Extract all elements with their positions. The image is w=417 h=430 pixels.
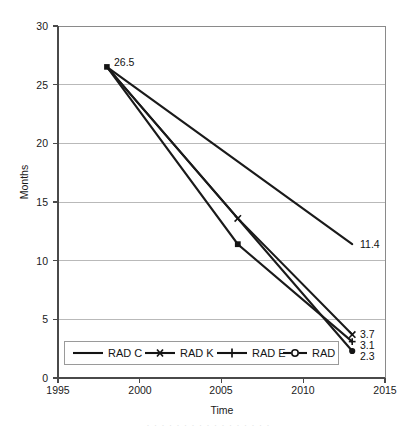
x-tick-label-2000: 2000 xyxy=(120,385,160,395)
y-axis-title: Months xyxy=(18,152,30,212)
x-axis-title: Time xyxy=(58,404,386,416)
marker-start-26-5 xyxy=(104,64,110,70)
y-tick-label-25: 25 xyxy=(22,80,48,90)
data-label-start: 26.5 xyxy=(114,57,134,67)
chart-figure: 30 25 20 15 10 5 0 1995 2000 2005 2010 2… xyxy=(0,0,417,430)
legend-content: RAD C RAD K RAD E RAD EK xyxy=(65,342,338,364)
marker-rad-k-end xyxy=(349,331,355,337)
legend-swatch-rad-e xyxy=(217,349,247,358)
gridlines xyxy=(58,85,385,320)
series-line-rad-k xyxy=(107,67,352,335)
series-line-rad-c xyxy=(107,67,352,244)
marker-rad-ek-end xyxy=(349,348,355,354)
x-tick-label-2015: 2015 xyxy=(365,385,405,395)
y-tick-label-10: 10 xyxy=(22,256,48,266)
data-label-rad-k: 3.7 xyxy=(360,329,375,339)
x-axis xyxy=(58,378,385,383)
x-tick-label-1995: 1995 xyxy=(38,385,78,395)
data-label-rad-c: 11.4 xyxy=(360,239,380,249)
legend-swatch-rad-k xyxy=(145,350,175,357)
data-label-rad-e: 3.1 xyxy=(360,340,375,350)
data-label-rad-ek: 2.3 xyxy=(360,351,375,361)
x-tick-label-2005: 2005 xyxy=(201,385,241,395)
legend-label-rad-ek: RAD EK xyxy=(312,347,338,359)
chart-legend: RAD C RAD K RAD E RAD EK xyxy=(64,341,339,365)
marker-rad-e-2006 xyxy=(235,241,241,247)
y-tick-label-20: 20 xyxy=(22,138,48,148)
series-line-rad-ek xyxy=(107,67,352,351)
legend-swatch-rad-ek xyxy=(283,350,307,356)
y-tick-label-30: 30 xyxy=(22,21,48,31)
y-tick-label-0: 0 xyxy=(22,373,48,383)
legend-label-rad-c: RAD C xyxy=(108,347,142,359)
caption-fragment: · · · · · · · · · · · · · · · · · xyxy=(0,420,417,430)
x-tick-label-2010: 2010 xyxy=(283,385,323,395)
legend-label-rad-k: RAD K xyxy=(180,347,214,359)
marker-rad-k-2006 xyxy=(235,215,241,221)
y-tick-label-5: 5 xyxy=(22,314,48,324)
legend-label-rad-e: RAD E xyxy=(252,347,286,359)
y-axis xyxy=(53,26,58,378)
